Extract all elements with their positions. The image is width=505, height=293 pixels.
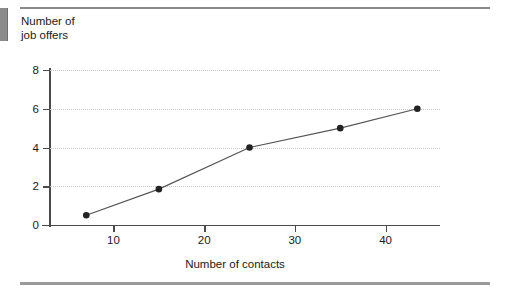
y-tick-label: 8 xyxy=(33,64,39,76)
series-polyline xyxy=(86,109,417,216)
x-tick-label: 20 xyxy=(198,234,211,246)
page-edge-marker xyxy=(0,8,8,41)
data-point-marker xyxy=(414,105,421,112)
y-tick-mark xyxy=(43,225,50,226)
top-divider-rule xyxy=(20,7,490,9)
y-tick-label: 4 xyxy=(33,142,39,154)
data-point-marker xyxy=(83,212,90,219)
data-point-marker xyxy=(337,125,344,132)
bottom-divider-rule xyxy=(20,282,490,285)
x-tick-mark xyxy=(204,225,205,232)
figure-container: Number of job offers 02468 10203040 Numb… xyxy=(0,0,505,293)
x-axis-line xyxy=(42,225,440,226)
y-tick-mark xyxy=(43,109,50,110)
x-tick-label: 40 xyxy=(379,234,392,246)
data-point-marker xyxy=(156,186,163,193)
y-tick-label: 6 xyxy=(33,103,39,115)
data-point-marker xyxy=(246,144,253,151)
y-axis-title: Number of job offers xyxy=(21,14,75,42)
data-series-line xyxy=(50,70,440,225)
x-tick-mark xyxy=(295,225,296,232)
y-tick-label: 2 xyxy=(33,180,39,192)
x-tick-mark xyxy=(113,225,114,232)
x-tick-label: 10 xyxy=(107,234,120,246)
y-tick-mark xyxy=(43,186,50,187)
x-tick-label: 30 xyxy=(288,234,301,246)
y-tick-mark xyxy=(43,148,50,149)
y-tick-mark xyxy=(43,70,50,71)
plot-area: 02468 10203040 xyxy=(50,70,440,225)
x-tick-mark xyxy=(386,225,387,232)
x-axis-title: Number of contacts xyxy=(0,258,470,270)
y-tick-label: 0 xyxy=(33,219,39,231)
